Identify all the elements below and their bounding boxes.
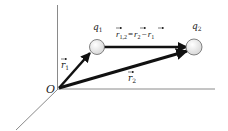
equation-r12: r1,2=r2−r1 [116,28,164,40]
q1-label: q1 [93,22,103,33]
svg-text:r1: r1 [61,60,69,71]
coordinate-axes [16,5,215,130]
svg-text:r2: r2 [128,73,136,84]
vector-r2-arrow [59,51,187,88]
position-vectors [59,47,187,88]
svg-text:q1: q1 [93,22,103,33]
r1-label: r1 [61,59,69,71]
charge-q2 [186,39,202,55]
r2-label: r2 [128,72,136,84]
origin-label: O [46,83,55,96]
svg-text:q2: q2 [192,21,202,32]
vector-diagram: O q1 q2 r1 r2 r1,2=r2−r1 [0,0,228,131]
q2-label: q2 [192,21,202,32]
charge-q1 [90,40,105,55]
svg-text:r1,2=r2−r1: r1,2=r2−r1 [116,29,154,40]
